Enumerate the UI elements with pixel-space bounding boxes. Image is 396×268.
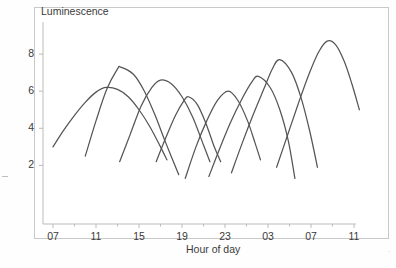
x-tick-label: 11 bbox=[85, 230, 107, 242]
left-edge-mark bbox=[2, 176, 8, 177]
x-tick-label: 15 bbox=[128, 230, 150, 242]
x-tick-label: 03 bbox=[257, 230, 279, 242]
x-tick-label: 07 bbox=[300, 230, 322, 242]
luminescence-curve bbox=[231, 60, 317, 173]
y-axis-title: Luminescence bbox=[41, 5, 109, 17]
y-tick-label: 4 bbox=[16, 121, 34, 133]
luminescence-curve bbox=[156, 97, 221, 162]
y-tick-label: 8 bbox=[16, 47, 34, 59]
chart-plot-area bbox=[0, 0, 396, 268]
luminescence-curves bbox=[53, 41, 359, 179]
chart-figure: Luminescence Hour of day 2468 0711151923… bbox=[0, 0, 396, 268]
x-tick-label: 07 bbox=[42, 230, 64, 242]
luminescence-curve bbox=[85, 66, 179, 174]
luminescence-curve bbox=[120, 80, 210, 162]
x-tick-label: 11 bbox=[343, 230, 365, 242]
y-tick-label: 2 bbox=[16, 158, 34, 170]
x-tick-label: 23 bbox=[214, 230, 236, 242]
luminescence-curve bbox=[53, 87, 167, 159]
luminescence-curve bbox=[277, 41, 360, 168]
y-tick-label: 6 bbox=[16, 84, 34, 96]
x-tick-label: 19 bbox=[171, 230, 193, 242]
bottom-right-mark: ´ bbox=[388, 252, 393, 256]
x-axis-title: Hour of day bbox=[186, 243, 240, 255]
luminescence-curve bbox=[209, 76, 295, 178]
